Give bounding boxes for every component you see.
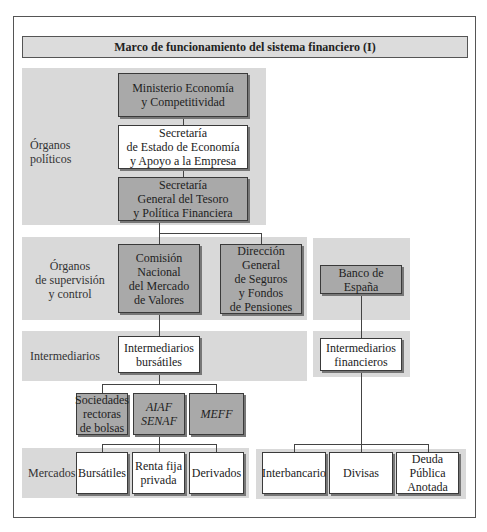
connector	[102, 384, 103, 393]
connector	[428, 444, 429, 452]
node-intermediarios-bursatiles: Intermediarios bursátiles	[118, 336, 200, 373]
label-organos-supervision: Órganos de supervisión y control	[22, 259, 118, 301]
connector	[102, 444, 103, 452]
connector	[183, 169, 184, 177]
connector	[361, 294, 362, 338]
label-intermediarios: Intermediarios	[30, 349, 120, 363]
node-bursatiles: Bursátiles	[76, 452, 128, 494]
connector	[294, 444, 295, 452]
connector	[159, 313, 160, 336]
connector	[294, 444, 428, 445]
connector	[361, 371, 362, 452]
connector	[261, 233, 262, 244]
node-deuda-publica: Deuda Pública Anotada	[396, 452, 459, 494]
node-dgsfp: Dirección General de Seguros y Fondos de…	[220, 244, 302, 314]
node-aiaf-senaf: AIAF SENAF	[133, 393, 185, 435]
label-mercados: Mercados	[28, 466, 78, 480]
node-secretaria-estado: Secretaría de Estado de Economía y Apoyo…	[118, 125, 248, 169]
node-renta-fija: Renta fija privada	[132, 452, 185, 494]
label-organos-politicos: Órganos políticos	[30, 138, 110, 166]
node-intermediarios-financieros: Intermediarios financieros	[320, 338, 402, 371]
node-cnmv: Comisión Nacional del Mercado de Valores	[118, 244, 200, 313]
connector	[159, 373, 160, 384]
node-sociedades-rectoras: Sociedades rectoras de bolsas	[76, 393, 128, 435]
connector	[102, 444, 216, 445]
diagram-title: Marco de funcionamiento del sistema fina…	[22, 36, 468, 58]
connector	[159, 233, 261, 234]
connector	[102, 384, 216, 385]
node-meff: MEFF	[189, 393, 244, 435]
node-interbancario: Interbancario	[262, 452, 326, 494]
node-secretaria-general: Secretaría General del Tesoro y Política…	[118, 177, 248, 221]
connector	[183, 117, 184, 125]
node-banco-espana: Banco de España	[320, 265, 402, 294]
connector	[216, 444, 217, 452]
node-divisas: Divisas	[329, 452, 393, 494]
node-derivados: Derivados	[189, 452, 244, 494]
node-ministerio: Ministerio Economía y Competitividad	[118, 73, 248, 117]
connector	[216, 384, 217, 393]
